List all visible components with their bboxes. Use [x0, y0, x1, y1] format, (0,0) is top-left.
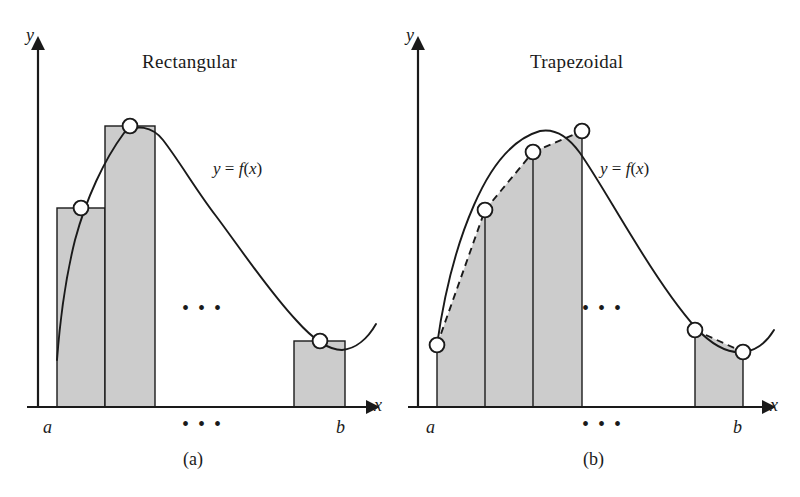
- lower-bound-label: a: [43, 418, 52, 436]
- x-axis-label: x: [770, 396, 778, 414]
- rectangle-bars: [57, 126, 345, 407]
- panel-caption: (a): [183, 450, 203, 468]
- panel-caption: (b): [583, 450, 604, 468]
- sample-point-marker: [123, 119, 138, 134]
- panel-title: Trapezoidal: [530, 52, 623, 71]
- curve-equation-label: y = f(x): [213, 160, 262, 177]
- panel-title: Rectangular: [142, 52, 237, 71]
- node-marker: [478, 203, 493, 218]
- rectangle-bar: [57, 208, 105, 407]
- node-marker: [575, 124, 590, 139]
- node-marker: [736, 345, 751, 360]
- sample-point-marker: [313, 334, 328, 349]
- sample-point-marker: [74, 201, 89, 216]
- node-marker: [430, 338, 445, 353]
- y-axis-label: y: [406, 26, 414, 44]
- ellipsis-axis: • • •: [182, 414, 223, 434]
- ellipsis-middle: • • •: [182, 298, 223, 318]
- y-axis-label: y: [26, 26, 34, 44]
- ellipsis-middle: • • •: [582, 298, 623, 318]
- upper-bound-label: b: [336, 418, 345, 436]
- node-marker: [688, 323, 703, 338]
- panel-trapezoidal: Trapezoidal y x y = f(x) a b • • • • • •…: [400, 0, 800, 497]
- upper-bound-label: b: [733, 418, 742, 436]
- trapezoid-band: [437, 131, 582, 407]
- node-marker: [526, 145, 541, 160]
- curve-equation-label: y = f(x): [600, 160, 649, 177]
- lower-bound-label: a: [426, 418, 435, 436]
- panel-rectangular: Rectangular y x y = f(x) a b • • • • • •…: [0, 0, 400, 497]
- ellipsis-axis: • • •: [582, 414, 623, 434]
- trapezoid-bands: [437, 131, 743, 407]
- rectangle-bar: [105, 126, 155, 407]
- x-axis-label: x: [374, 396, 382, 414]
- rectangle-bar: [294, 341, 345, 407]
- figure-root: Rectangular y x y = f(x) a b • • • • • •…: [0, 0, 800, 497]
